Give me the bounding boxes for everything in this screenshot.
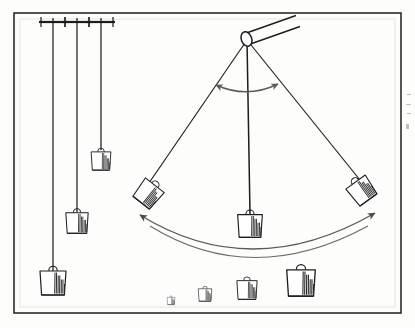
plumb-bob xyxy=(91,148,111,170)
pendulum-figure-svg xyxy=(0,0,415,328)
plumb-bob xyxy=(66,209,88,234)
weight-medium xyxy=(237,277,257,299)
weight-small xyxy=(198,286,212,301)
weight-smallest xyxy=(167,296,175,305)
plumb-bob xyxy=(40,266,66,295)
weight-large xyxy=(287,265,316,297)
figure-root xyxy=(0,0,415,328)
bob-center-rest xyxy=(238,210,263,237)
